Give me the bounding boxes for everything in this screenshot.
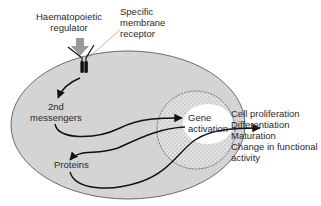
receptor-label-line2: membrane bbox=[120, 17, 165, 28]
outcome-item: Cell proliferation bbox=[231, 108, 318, 119]
gene-label-line1: Gene bbox=[188, 112, 228, 123]
messengers-label: 2nd messengers bbox=[30, 101, 82, 123]
outcome-item: Differentiation bbox=[231, 119, 318, 130]
gene-activation-label: Gene activation bbox=[188, 112, 228, 134]
receptor-label: Specific membrane receptor bbox=[120, 6, 165, 39]
messengers-label-line2: messengers bbox=[30, 112, 82, 123]
receptor-label-line1: Specific bbox=[120, 6, 165, 17]
gene-label-line2: activation bbox=[188, 123, 228, 134]
receptor-label-line3: receptor bbox=[120, 28, 165, 39]
outcome-item: Maturation bbox=[231, 130, 318, 141]
outcome-item: activity bbox=[231, 152, 318, 163]
regulator-label-line2: regulator bbox=[36, 22, 102, 33]
regulator-arrow-icon bbox=[71, 38, 89, 56]
proteins-label: Proteins bbox=[54, 159, 89, 170]
outcomes-list: Cell proliferation Differentiation Matur… bbox=[231, 108, 318, 163]
outcome-item: Change in functional bbox=[231, 141, 318, 152]
regulator-label-line1: Haematopoietic bbox=[36, 11, 102, 22]
regulator-label: Haematopoietic regulator bbox=[36, 11, 102, 33]
messengers-label-line1: 2nd bbox=[30, 101, 82, 112]
